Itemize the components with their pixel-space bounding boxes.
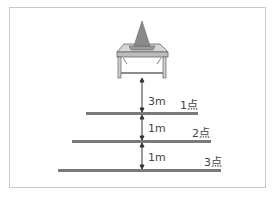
throwing-distance-diagram (0, 0, 278, 200)
distance-label-1: 3m (148, 96, 166, 107)
points-label-2: 2点 (192, 128, 210, 139)
points-label-3: 3点 (204, 157, 222, 168)
points-label-1: 1点 (180, 100, 198, 111)
distance-label-2: 1m (148, 123, 166, 134)
distance-arrows (140, 78, 144, 169)
throw-line-2 (72, 140, 211, 143)
distance-label-3: 1m (148, 152, 166, 163)
throw-line-1 (86, 112, 198, 115)
throw-line-3 (58, 169, 221, 172)
